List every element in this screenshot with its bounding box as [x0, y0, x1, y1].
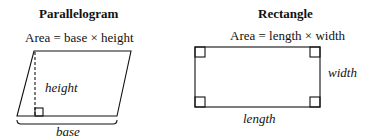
rectangle-formula: Area = length × width: [230, 28, 345, 44]
width-label: width: [328, 65, 357, 81]
height-label: height: [45, 80, 78, 96]
parallelogram-title: Parallelogram: [39, 6, 118, 22]
base-label: base: [56, 124, 80, 139]
corner-marker-tr: [310, 47, 320, 57]
corner-marker-br: [310, 97, 320, 107]
rectangle-title: Rectangle: [258, 6, 313, 22]
corner-marker-tl: [195, 47, 205, 57]
parallelogram-formula: Area = base × height: [25, 30, 134, 46]
rectangle-shape: [195, 47, 320, 107]
corner-marker-bl: [195, 97, 205, 107]
length-label: length: [243, 111, 276, 127]
right-angle-marker: [35, 108, 43, 116]
